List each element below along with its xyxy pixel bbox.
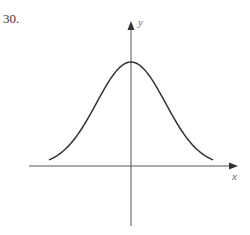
y-axis [128, 21, 135, 226]
y-axis-arrow-icon [128, 21, 135, 30]
x-axis [29, 163, 238, 170]
bell-curve-graph [0, 0, 250, 235]
x-axis-arrow-icon [229, 163, 238, 170]
